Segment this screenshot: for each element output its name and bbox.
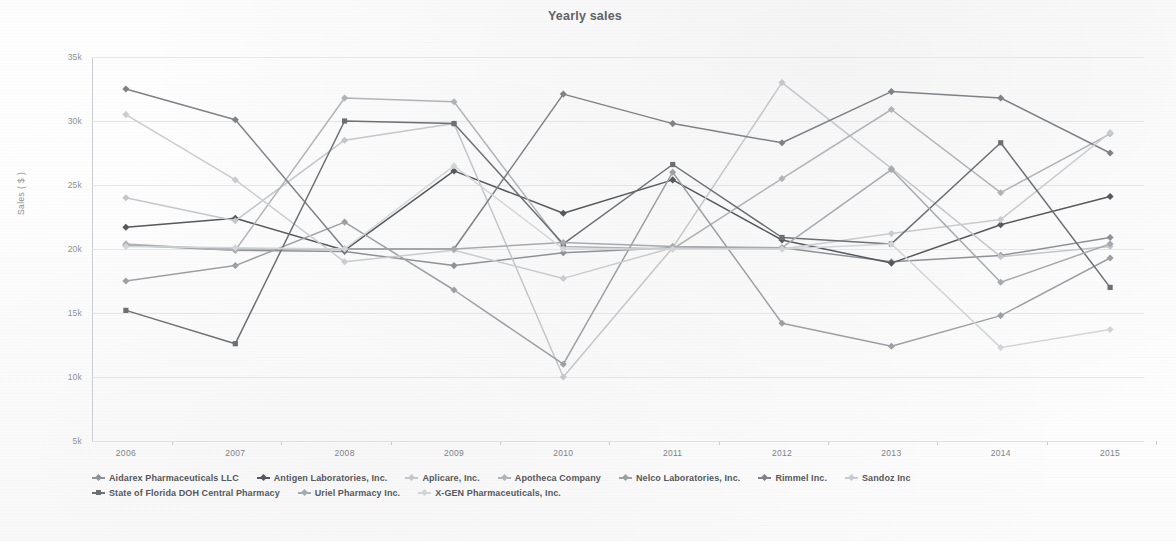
yearly-sales-chart: Yearly sales Sales ( $ ) 35k30k25k20k15k…	[0, 0, 1176, 541]
legend-marker-icon	[619, 473, 632, 482]
data-point	[888, 230, 895, 237]
y-tick-label: 35k	[48, 52, 82, 62]
plot-area	[92, 57, 1144, 441]
chart-legend: Aidarex Pharmaceuticals LLCAntigen Labor…	[92, 470, 1152, 500]
legend-item[interactable]: Aplicare, Inc.	[405, 473, 479, 483]
data-point	[451, 121, 456, 126]
data-point	[1107, 149, 1114, 156]
data-point	[779, 235, 784, 240]
series-9	[122, 162, 1113, 351]
data-point	[122, 224, 129, 231]
legend-item[interactable]: State of Florida DOH Central Pharmacy	[92, 488, 280, 498]
y-tick-label: 10k	[48, 372, 82, 382]
data-point	[450, 262, 457, 269]
legend-label: Rimmel Inc.	[775, 473, 827, 483]
data-point	[122, 194, 129, 201]
data-point	[778, 139, 785, 146]
chart-title: Yearly sales	[0, 9, 1176, 23]
data-point	[998, 140, 1003, 145]
legend-label: X-GEN Pharmaceuticals, Inc.	[435, 488, 561, 498]
y-tick-label: 30k	[48, 116, 82, 126]
x-tick-label: 2012	[752, 448, 812, 458]
data-point	[342, 118, 347, 123]
y-tick-label: 15k	[48, 308, 82, 318]
legend-row: Aidarex Pharmaceuticals LLCAntigen Labor…	[92, 470, 1152, 485]
legend-item[interactable]: X-GEN Pharmaceuticals, Inc.	[418, 488, 561, 498]
legend-item[interactable]: Sandoz Inc	[845, 473, 911, 483]
legend-item[interactable]: Antigen Laboratories, Inc.	[257, 473, 388, 483]
legend-marker-icon	[418, 488, 431, 497]
series-line	[126, 238, 1110, 266]
x-tick-label: 2008	[315, 448, 375, 458]
series-lines-svg	[92, 57, 1144, 441]
chart-title-text: Yearly sales	[548, 9, 622, 23]
series-line	[126, 98, 1110, 250]
data-point	[888, 343, 895, 350]
legend-marker-icon	[405, 473, 418, 482]
data-point	[123, 308, 128, 313]
x-tick-label: 2006	[96, 448, 156, 458]
data-point	[122, 85, 129, 92]
y-tick-label: 25k	[48, 180, 82, 190]
y-tick-label: 5k	[48, 436, 82, 446]
data-point	[341, 219, 348, 226]
x-tick-label: 2011	[643, 448, 703, 458]
data-point	[888, 88, 895, 95]
series-2	[122, 79, 1113, 380]
legend-item[interactable]: Nelco Laboratories, Inc.	[619, 473, 740, 483]
data-point	[233, 341, 238, 346]
data-point	[669, 120, 676, 127]
legend-row: State of Florida DOH Central PharmacyUri…	[92, 485, 1152, 500]
data-point	[560, 275, 567, 282]
x-tick-label: 2010	[533, 448, 593, 458]
legend-item[interactable]: Apotheca Company	[498, 473, 601, 483]
legend-marker-icon	[92, 488, 105, 497]
legend-marker-icon	[257, 473, 270, 482]
data-point	[1108, 285, 1113, 290]
legend-marker-icon	[92, 473, 105, 482]
x-tick-label: 2009	[424, 448, 484, 458]
legend-label: Sandoz Inc	[862, 473, 911, 483]
legend-label: Uriel Pharmacy Inc.	[315, 488, 400, 498]
legend-label: State of Florida DOH Central Pharmacy	[109, 488, 280, 498]
data-point	[122, 277, 129, 284]
legend-item[interactable]: Rimmel Inc.	[758, 473, 827, 483]
data-point	[1107, 254, 1114, 261]
legend-marker-icon	[498, 473, 511, 482]
series-4	[122, 169, 1113, 368]
legend-label: Aplicare, Inc.	[422, 473, 479, 483]
legend-item[interactable]: Uriel Pharmacy Inc.	[298, 488, 400, 498]
legend-label: Apotheca Company	[515, 473, 601, 483]
y-axis-title: Sales ( $ )	[16, 172, 26, 215]
x-tick-label: 2015	[1080, 448, 1140, 458]
x-tick-label: 2014	[971, 448, 1031, 458]
legend-item[interactable]: Aidarex Pharmaceuticals LLC	[92, 473, 239, 483]
x-tickmark	[1156, 441, 1157, 445]
data-point	[670, 162, 675, 167]
series-line	[126, 172, 1110, 364]
legend-label: Antigen Laboratories, Inc.	[274, 473, 388, 483]
data-point	[1107, 193, 1114, 200]
y-tick-label: 20k	[48, 244, 82, 254]
legend-label: Aidarex Pharmaceuticals LLC	[109, 473, 239, 483]
data-point	[997, 94, 1004, 101]
legend-marker-icon	[758, 473, 771, 482]
legend-marker-icon	[298, 488, 311, 497]
data-point	[1107, 234, 1114, 241]
x-tick-label: 2007	[205, 448, 265, 458]
data-point	[122, 111, 129, 118]
data-point	[560, 210, 567, 217]
data-point	[888, 260, 895, 267]
x-tick-label: 2013	[861, 448, 921, 458]
data-point	[997, 312, 1004, 319]
data-point	[232, 262, 239, 269]
legend-marker-icon	[845, 473, 858, 482]
series-3	[122, 94, 1113, 253]
gridline	[92, 441, 1144, 442]
legend-label: Nelco Laboratories, Inc.	[636, 473, 740, 483]
data-point	[1107, 326, 1114, 333]
